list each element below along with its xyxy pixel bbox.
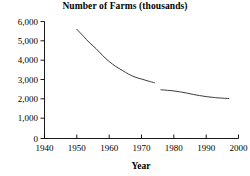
x-tick-label-1940: 1940 xyxy=(36,143,55,153)
x-tick-label-1950: 1950 xyxy=(68,143,87,153)
y-tick-label-5000: 5,000 xyxy=(18,36,39,46)
x-tick-label-2000: 2000 xyxy=(230,143,249,153)
y-axis-tick-labels: 6,000 5,000 4,000 3,000 2,000 1,000 0 xyxy=(18,17,39,144)
y-tick-label-3000: 3,000 xyxy=(18,75,39,85)
data-line-segment-2 xyxy=(161,90,229,99)
y-tick-label-6000: 6,000 xyxy=(18,17,39,27)
x-axis-label: Year xyxy=(132,161,152,171)
chart-plot-area: 6,000 5,000 4,000 3,000 2,000 1,000 0 19… xyxy=(0,0,250,176)
y-axis-ticks xyxy=(41,22,45,139)
data-series-group xyxy=(77,29,229,98)
y-tick-label-1000: 1,000 xyxy=(18,113,39,123)
x-tick-label-1970: 1970 xyxy=(133,143,152,153)
x-axis-ticks xyxy=(45,135,239,139)
x-tick-label-1960: 1960 xyxy=(100,143,119,153)
chart-figure: Number of Farms (thousands) 6,000 5,000 … xyxy=(0,0,250,176)
y-tick-label-0: 0 xyxy=(34,134,39,144)
y-tick-label-2000: 2,000 xyxy=(18,94,39,104)
data-line-segment-1 xyxy=(77,29,155,82)
x-tick-label-1990: 1990 xyxy=(197,143,216,153)
x-axis-tick-labels: 1940 1950 1960 1970 1980 1990 2000 xyxy=(36,143,249,153)
y-tick-label-4000: 4,000 xyxy=(18,55,39,65)
x-tick-label-1980: 1980 xyxy=(165,143,184,153)
